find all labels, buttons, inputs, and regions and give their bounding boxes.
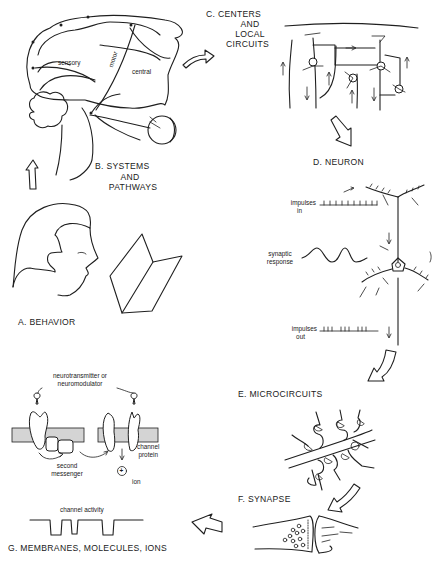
panel-b-title-and: AND	[95, 172, 165, 182]
panel-b-title: B. SYSTEMS	[95, 161, 150, 171]
channel-activity-text: channel activity	[60, 506, 104, 513]
cortical-circuits-illustration	[281, 23, 418, 110]
panel-f-title: F. SYNAPSE	[238, 494, 291, 504]
flow-arrow-d-to-e-icon	[368, 350, 396, 381]
central-text: central	[132, 68, 151, 75]
second-messenger-label: second messenger	[44, 462, 90, 477]
impulses-in-label: impulses in	[270, 199, 316, 214]
panel-b-line-3: PATHWAYS	[109, 182, 157, 192]
channel-protein-label: channel protein	[137, 443, 159, 458]
panel-c-title-and: AND	[222, 19, 278, 29]
neuron-illustration	[302, 184, 431, 345]
ion-text: ion	[132, 478, 141, 485]
synaptic-response-label: synaptic response	[258, 250, 302, 265]
panel-g-title: G. MEMBRANES, MOLECULES, IONS	[8, 543, 167, 553]
impulses-out-line-1: impulses	[270, 325, 317, 333]
panel-c-line-1: C. CENTERS	[206, 9, 261, 19]
brain-illustration	[27, 16, 182, 181]
neurotransmitter-label: neurotransmitter or neuromodulator	[40, 372, 120, 387]
impulses-out-line-2: out	[270, 333, 317, 341]
panel-c-title-local: LOCAL	[222, 29, 278, 39]
panel-f-text: F. SYNAPSE	[238, 494, 291, 504]
panel-d-title: D. NEURON	[313, 157, 364, 167]
synapse-illustration	[253, 516, 358, 553]
synaptic-line-1: synaptic	[258, 250, 302, 258]
panel-c-title-circuits: CIRCUITS	[226, 39, 269, 49]
channel-activity-label: channel activity	[60, 506, 104, 514]
panel-c-title: C. CENTERS	[206, 9, 261, 19]
sensory-text: sensory	[58, 59, 80, 66]
panel-b-line-2: AND	[120, 172, 139, 182]
flow-arrow-a-to-b-icon	[26, 160, 38, 189]
panel-c-line-3: LOCAL	[235, 29, 265, 39]
ion-label: ion	[132, 478, 141, 486]
ion-plus-text: +	[120, 467, 124, 474]
neurotransmitter-line-2: neuromodulator	[40, 380, 120, 388]
panel-a-title: A. BEHAVIOR	[18, 317, 76, 327]
panel-c-line-4: CIRCUITS	[226, 39, 269, 49]
central-label: central	[132, 68, 151, 76]
impulses-in-line-1: impulses	[270, 199, 316, 207]
ion-symbol: +	[120, 467, 124, 475]
panel-b-title-pathways: PATHWAYS	[98, 182, 168, 192]
microcircuits-illustration	[285, 410, 375, 490]
panel-a-text: A. BEHAVIOR	[18, 317, 76, 327]
impulses-in-line-2: in	[270, 207, 316, 215]
panel-d-text: D. NEURON	[313, 157, 364, 167]
second-messenger-line-2: messenger	[44, 470, 90, 478]
sensory-label: sensory	[58, 59, 80, 67]
flow-arrow-f-to-g-icon	[192, 514, 222, 534]
panel-e-title: E. MICROCIRCUITS	[238, 389, 323, 399]
neurotransmitter-line-1: neurotransmitter or	[40, 372, 120, 380]
channel-protein-line-1: channel	[137, 443, 159, 451]
flow-arrow-b-to-c-icon	[183, 50, 214, 68]
channel-protein-line-2: protein	[137, 451, 159, 459]
flow-arrow-e-to-f-icon	[328, 484, 360, 512]
impulses-out-label: impulses out	[270, 325, 317, 340]
second-messenger-line-1: second	[44, 462, 90, 470]
panel-c-line-2: AND	[240, 19, 259, 29]
panel-e-text: E. MICROCIRCUITS	[238, 389, 323, 399]
diagram-artwork	[0, 0, 446, 576]
flow-arrow-c-to-d-icon	[331, 116, 351, 146]
panel-g-text: G. MEMBRANES, MOLECULES, IONS	[8, 543, 167, 553]
synaptic-line-2: response	[258, 258, 302, 266]
panel-b-line-1: B. SYSTEMS	[95, 161, 150, 171]
